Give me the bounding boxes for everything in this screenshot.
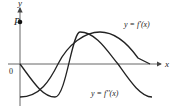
f-prime-label: y = f'(x) <box>123 20 150 29</box>
point-p-label: P <box>13 16 20 27</box>
curve-f-prime <box>20 32 150 97</box>
y-axis-label: y <box>17 0 22 8</box>
origin-label: 0 <box>9 67 13 76</box>
f-double-prime-label: y = f''(x) <box>90 89 119 98</box>
curve-f-double-prime <box>20 32 152 97</box>
x-axis-label: x <box>164 59 169 69</box>
graph-canvas: P y x 0 y = f'(x) y = f''(x) <box>0 0 173 108</box>
